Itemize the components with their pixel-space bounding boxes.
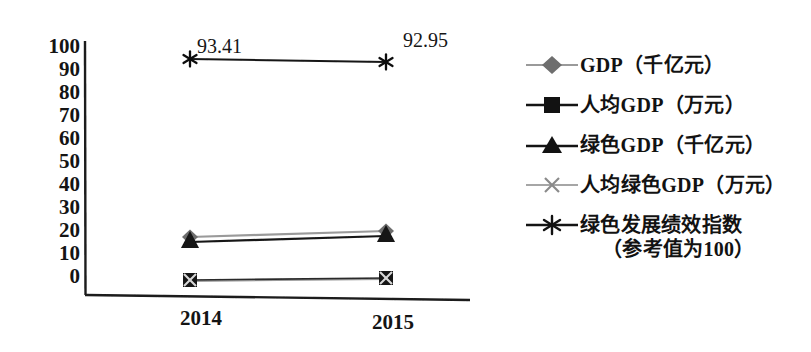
square-marker-icon: [544, 97, 560, 113]
x-axis-line: [85, 295, 470, 300]
legend-label-block: 绿色发展绩效指数 （参考值为100）: [580, 212, 755, 262]
legend-item-performance-index: 绿色发展绩效指数 （参考值为100）: [524, 212, 811, 262]
legend-key-per-capita-gdp: [524, 92, 580, 118]
legend-key-performance-index: [524, 212, 580, 238]
legend-item-per-capita-gdp: 人均GDP（万元）: [524, 92, 811, 118]
y-axis-line: [85, 41, 86, 295]
legend-item-label: 绿色GDP（千亿元）: [580, 132, 765, 158]
legend-item-label-line2: （参考值为100）: [580, 236, 755, 262]
legend-label-block: 人均GDP（万元）: [580, 92, 745, 118]
diamond-marker-icon: [542, 56, 562, 74]
legend-item-label: 绿色发展绩效指数: [580, 212, 755, 238]
plot-area: 100 90 80 70 60 50 40 30 20 10 0 2014 20…: [0, 0, 520, 352]
legend-label-block: 人均绿色GDP（万元）: [580, 172, 786, 198]
legend-item-label: 人均绿色GDP（万元）: [580, 172, 786, 198]
legend-item-per-capita-green-gdp: 人均绿色GDP（万元）: [524, 172, 811, 198]
triangle-marker-icon: [542, 136, 562, 153]
chart-legend: GDP（千亿元） 人均GDP（万元） 绿色GDP（千: [524, 52, 811, 276]
chart-container: 100 90 80 70 60 50 40 30 20 10 0 2014 20…: [0, 0, 811, 352]
legend-item-label: GDP（千亿元）: [580, 52, 725, 78]
legend-key-per-capita-green-gdp: [524, 172, 580, 198]
triangle-marker-icon: [181, 231, 199, 248]
legend-label-block: GDP（千亿元）: [580, 52, 725, 78]
series-line-performance-index: [184, 52, 393, 70]
plot-svg: [0, 0, 520, 352]
legend-label-block: 绿色GDP（千亿元）: [580, 132, 765, 158]
legend-key-green-gdp: [524, 132, 580, 158]
legend-item-gdp: GDP（千亿元）: [524, 52, 811, 78]
legend-item-green-gdp: 绿色GDP（千亿元）: [524, 132, 811, 158]
series-line-per-capita-gdp: [183, 271, 393, 287]
legend-item-label: 人均GDP（万元）: [580, 92, 745, 118]
legend-key-gdp: [524, 52, 580, 78]
triangle-marker-icon: [377, 225, 395, 242]
